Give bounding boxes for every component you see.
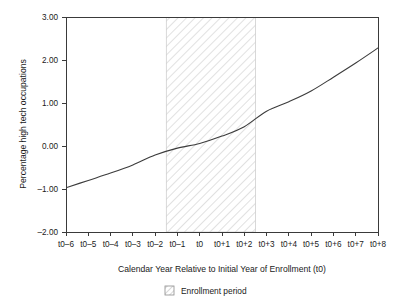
x-tick-label: t0–3 [125,240,141,249]
y-axis-title: Percentage high tech occupations [18,59,28,188]
legend-label-enrollment-period: Enrollment period [181,286,247,296]
y-tick-label: –1.00 [38,185,59,194]
y-tick-label: 2.00 [42,56,58,65]
x-tick-label: t0–4 [103,240,119,249]
x-tick-label: t0+6 [325,240,342,249]
x-tick-label: t0–6 [58,240,74,249]
x-tick-label: t0+5 [303,240,320,249]
x-tick-label: t0+8 [370,240,387,249]
y-tick-label: 1.00 [42,99,58,108]
y-tick-label: 3.00 [42,13,58,22]
legend-swatch-enrollment-period [165,286,174,295]
x-tick-label: t0+4 [281,240,298,249]
y-tick-label: –2.00 [38,228,59,237]
legend: Enrollment period [165,286,247,296]
x-tick-label: t0–5 [80,240,96,249]
x-axis-ticks [66,232,378,236]
x-tick-label: t0 [196,240,203,249]
x-tick-label: t0–2 [147,240,163,249]
x-tick-label: t0+2 [236,240,253,249]
x-tick-label: t0–1 [169,240,185,249]
x-tick-labels: t0–6 t0–5 t0–4 t0–3 t0–2 t0–1 t0 t0+1 t0… [58,240,386,249]
y-tick-label: 0.00 [42,142,58,151]
x-tick-label: t0+7 [348,240,365,249]
y-axis-ticks [62,17,66,232]
x-axis-title: Calendar Year Relative to Initial Year o… [118,264,326,274]
y-tick-labels: 3.00 2.00 1.00 0.00 –1.00 –2.00 [38,13,59,237]
enrollment-period-band [166,17,255,232]
line-chart: 3.00 2.00 1.00 0.00 –1.00 –2.00 [0,0,409,304]
chart-figure: 3.00 2.00 1.00 0.00 –1.00 –2.00 [0,0,409,304]
x-tick-label: t0+1 [214,240,231,249]
x-tick-label: t0+3 [259,240,276,249]
